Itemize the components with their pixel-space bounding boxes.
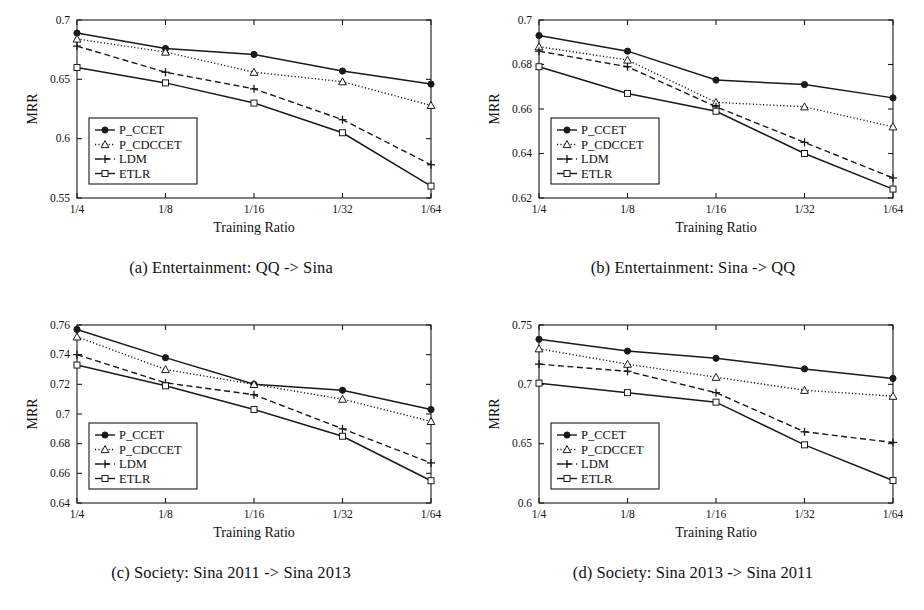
y-tick-label: 0.64 xyxy=(50,497,70,509)
y-tick-label: 0.76 xyxy=(50,319,70,331)
data-point-marker-0-4 xyxy=(890,95,896,101)
x-tick-label: 1/64 xyxy=(883,203,903,215)
legend-label-ldm: LDM xyxy=(119,457,147,471)
data-point-marker-0-4 xyxy=(428,81,434,87)
y-tick-label: 0.62 xyxy=(512,192,532,204)
data-point-marker-0-1 xyxy=(624,48,630,54)
data-point-marker-3-2 xyxy=(713,399,719,405)
x-tick-label: 1/16 xyxy=(244,203,265,215)
x-tick-label: 1/32 xyxy=(332,508,353,520)
data-point-marker-0-0 xyxy=(536,32,542,38)
y-tick-label: 0.66 xyxy=(512,103,532,115)
data-point-marker-2-2 xyxy=(250,85,258,93)
x-tick-label: 1/8 xyxy=(620,508,635,520)
data-point-marker-1-3 xyxy=(801,103,809,110)
panel-caption-d: (d) Society: Sina 2013 -> Sina 2011 xyxy=(573,563,813,583)
data-point-marker-0-3 xyxy=(339,387,345,393)
data-point-marker-0-4 xyxy=(428,406,434,412)
data-point-marker-2-4 xyxy=(427,161,435,169)
data-point-marker-0-1 xyxy=(624,348,630,354)
data-point-marker-2-0 xyxy=(73,351,81,359)
chart-svg-a: 0.550.60.650.71/41/81/161/321/64Training… xyxy=(21,8,441,256)
legend-label-p_ccet: P_CCET xyxy=(119,428,165,442)
y-tick-label: 0.7 xyxy=(518,14,533,26)
x-axis-title: Training Ratio xyxy=(675,525,757,540)
data-point-marker-legend-3 xyxy=(102,476,108,482)
data-point-marker-3-3 xyxy=(340,433,346,439)
data-point-marker-1-0 xyxy=(535,345,543,352)
chart-legend: P_CCETP_CDCCETLDMETLR xyxy=(89,423,197,489)
legend-label-p_ccet: P_CCET xyxy=(119,123,165,137)
series-p_ccet xyxy=(536,32,896,101)
data-point-marker-1-3 xyxy=(339,78,347,85)
plot-area-d: 0.60.650.70.751/41/81/161/321/64Training… xyxy=(483,313,903,561)
series-p_ccet xyxy=(74,326,434,412)
data-point-marker-1-1 xyxy=(624,56,632,63)
data-point-marker-3-1 xyxy=(625,90,631,96)
legend-label-etlr: ETLR xyxy=(581,472,613,486)
chart-panel-a: 0.550.60.650.71/41/81/161/321/64Training… xyxy=(0,0,462,305)
data-point-marker-2-4 xyxy=(889,174,897,182)
series-p_cdccet xyxy=(73,35,435,108)
data-point-marker-2-3 xyxy=(339,116,347,124)
x-tick-label: 1/8 xyxy=(158,508,173,520)
plot-area-b: 0.620.640.660.680.71/41/81/161/321/64Tra… xyxy=(483,8,903,256)
data-point-marker-1-4 xyxy=(427,418,435,425)
y-tick-label: 0.7 xyxy=(518,378,533,390)
series-p_cdccet xyxy=(535,43,897,130)
chart-svg-c: 0.640.660.680.70.720.740.761/41/81/161/3… xyxy=(21,313,441,561)
data-point-marker-0-2 xyxy=(713,77,719,83)
legend-label-p_ccet: P_CCET xyxy=(581,428,627,442)
x-tick-label: 1/16 xyxy=(244,508,265,520)
y-tick-label: 0.75 xyxy=(512,319,532,331)
y-tick-label: 0.74 xyxy=(50,348,70,360)
legend-label-p_cdccet: P_CDCCET xyxy=(581,443,644,457)
y-tick-label: 0.66 xyxy=(50,467,70,479)
data-point-marker-1-0 xyxy=(73,35,81,42)
data-point-marker-legend-0 xyxy=(564,127,570,133)
data-point-marker-2-0 xyxy=(535,360,543,368)
legend-label-etlr: ETLR xyxy=(119,472,151,486)
data-point-marker-2-1 xyxy=(624,367,632,375)
data-point-marker-legend-3 xyxy=(564,171,570,177)
legend-label-etlr: ETLR xyxy=(119,167,151,181)
data-point-marker-3-3 xyxy=(802,442,808,448)
series-line-p_ccet xyxy=(539,36,893,98)
data-point-marker-0-4 xyxy=(890,375,896,381)
y-axis-title: MRR xyxy=(25,93,40,125)
plot-area-c: 0.640.660.680.70.720.740.761/41/81/161/3… xyxy=(21,313,441,561)
x-tick-label: 1/16 xyxy=(706,508,727,520)
x-tick-label: 1/8 xyxy=(620,203,635,215)
series-p_ccet xyxy=(74,30,434,87)
data-point-marker-3-4 xyxy=(890,477,896,483)
x-tick-label: 1/4 xyxy=(70,508,85,520)
data-point-marker-2-4 xyxy=(889,438,897,446)
data-point-marker-3-4 xyxy=(428,478,434,484)
y-tick-label: 0.65 xyxy=(50,73,70,85)
data-point-marker-legend-0 xyxy=(102,432,108,438)
data-point-marker-3-4 xyxy=(428,183,434,189)
data-point-marker-legend-3 xyxy=(102,171,108,177)
data-point-marker-2-1 xyxy=(162,68,170,76)
legend-label-p_ccet: P_CCET xyxy=(581,123,627,137)
data-point-marker-legend-0 xyxy=(564,432,570,438)
x-tick-label: 1/32 xyxy=(794,203,815,215)
data-point-marker-2-3 xyxy=(339,425,347,433)
chart-svg-d: 0.60.650.70.751/41/81/161/321/64Training… xyxy=(483,313,903,561)
legend-label-etlr: ETLR xyxy=(581,167,613,181)
x-tick-label: 1/32 xyxy=(794,508,815,520)
data-point-marker-legend-3 xyxy=(564,476,570,482)
y-tick-label: 0.6 xyxy=(56,132,71,144)
chart-panel-b: 0.620.640.660.680.71/41/81/161/321/64Tra… xyxy=(462,0,924,305)
y-axis-title: MRR xyxy=(25,398,40,430)
data-point-marker-2-4 xyxy=(427,459,435,467)
x-tick-label: 1/8 xyxy=(158,203,173,215)
chart-svg-b: 0.620.640.660.680.71/41/81/161/321/64Tra… xyxy=(483,8,903,256)
data-point-marker-legend-0 xyxy=(102,127,108,133)
x-axis-title: Training Ratio xyxy=(213,220,295,235)
x-tick-label: 1/64 xyxy=(421,203,441,215)
data-point-marker-3-3 xyxy=(340,130,346,136)
data-point-marker-2-2 xyxy=(712,389,720,397)
panel-caption-c: (c) Society: Sina 2011 -> Sina 2013 xyxy=(111,563,351,583)
plot-area-a: 0.550.60.650.71/41/81/161/321/64Training… xyxy=(21,8,441,256)
